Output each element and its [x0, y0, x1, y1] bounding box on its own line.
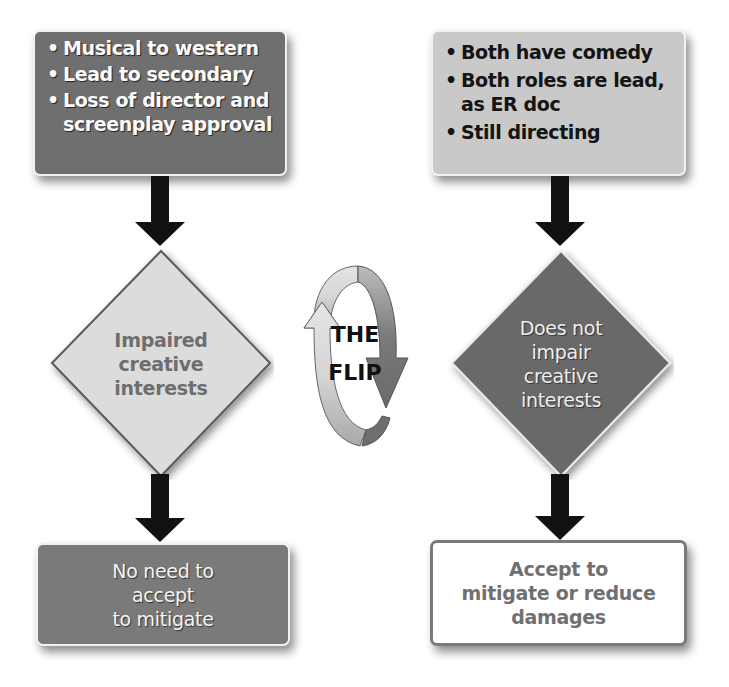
- outcome-line: Accept to: [461, 557, 655, 581]
- flip-label-line2: FLIP: [300, 358, 410, 388]
- outcome-line: accept: [112, 583, 213, 607]
- left-condition-item: Lead to secondary: [47, 62, 279, 86]
- decision-line: Impaired: [48, 328, 274, 352]
- flip-label-line1: THE: [300, 320, 410, 350]
- right-condition-item: Both have comedy: [445, 40, 678, 64]
- left-decision-diamond: Impaired creative interests: [48, 248, 274, 480]
- left-condition-item: Loss of director and screenplay approval: [47, 88, 279, 136]
- right-outcome-box: Accept to mitigate or reduce damages: [430, 540, 687, 646]
- down-arrow-icon: [532, 474, 588, 542]
- left-conditions-list: Musical to western Lead to secondary Los…: [47, 36, 279, 136]
- decision-line: creative: [48, 352, 274, 376]
- down-arrow-icon: [132, 474, 188, 544]
- outcome-line: No need to: [112, 559, 213, 583]
- left-outcome-label: No need to accept to mitigate: [112, 559, 213, 631]
- down-arrow-icon: [132, 176, 188, 248]
- right-outcome-label: Accept to mitigate or reduce damages: [461, 557, 655, 629]
- right-decision-diamond: Does not impair creative interests: [448, 248, 674, 480]
- left-condition-item: Musical to western: [47, 36, 279, 60]
- left-outcome-box: No need to accept to mitigate: [36, 543, 290, 646]
- decision-line: impair: [448, 340, 674, 364]
- cycle-arrows-icon: [300, 258, 410, 450]
- decision-line: creative: [448, 364, 674, 388]
- decision-line: Does not: [448, 316, 674, 340]
- right-conditions-list: Both have comedy Both roles are lead, as…: [445, 40, 678, 144]
- down-arrow-icon: [532, 176, 588, 248]
- right-conditions-box: Both have comedy Both roles are lead, as…: [431, 30, 686, 176]
- decision-line: interests: [448, 388, 674, 412]
- right-decision-label: Does not impair creative interests: [448, 316, 674, 412]
- left-conditions-box: Musical to western Lead to secondary Los…: [33, 30, 287, 176]
- outcome-line: mitigate or reduce: [461, 581, 655, 605]
- outcome-line: damages: [461, 605, 655, 629]
- right-condition-item: Both roles are lead, as ER doc: [445, 68, 678, 116]
- outcome-line: to mitigate: [112, 607, 213, 631]
- decision-line: interests: [48, 376, 274, 400]
- right-condition-item: Still directing: [445, 120, 678, 144]
- left-decision-label: Impaired creative interests: [48, 328, 274, 400]
- the-flip-cycle: THE FLIP: [300, 258, 410, 450]
